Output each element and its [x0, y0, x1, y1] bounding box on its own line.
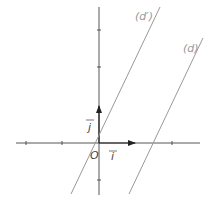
coordinate-diagram: O i j (d′) (d) — [0, 0, 220, 212]
line-d-prime — [71, 7, 160, 194]
line-d-label: (d) — [183, 42, 199, 55]
vector-i-label: i — [111, 150, 114, 163]
origin-label: O — [90, 149, 99, 162]
line-d — [129, 38, 203, 194]
diagram-svg: O i j (d′) (d) — [0, 0, 220, 212]
vector-j-label: j — [86, 121, 92, 134]
line-d-prime-label: (d′) — [135, 10, 153, 23]
